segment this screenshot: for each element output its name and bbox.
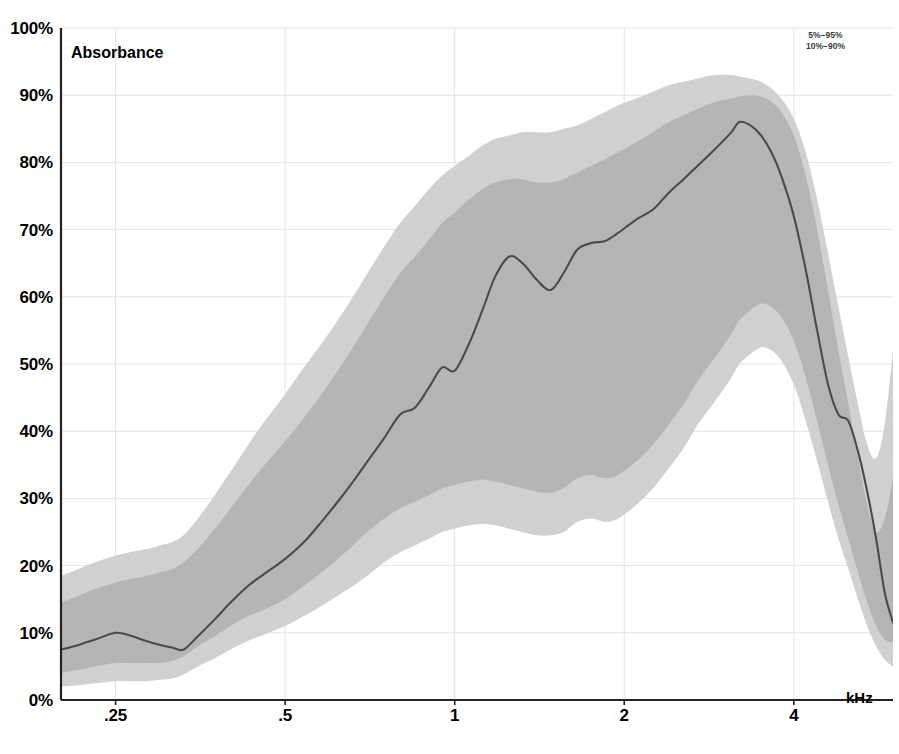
absorbance-chart bbox=[0, 0, 899, 754]
y-tick-label: 70% bbox=[0, 221, 53, 241]
y-tick-label: 20% bbox=[0, 557, 53, 577]
y-tick-label: 40% bbox=[0, 422, 53, 442]
y-tick-label: 100% bbox=[0, 19, 53, 39]
y-tick-label: 80% bbox=[0, 153, 53, 173]
x-axis-title: kHz bbox=[846, 689, 873, 706]
y-tick-label: 0% bbox=[0, 691, 53, 711]
chart-legend: 5%−95% 10%−90% bbox=[806, 30, 845, 53]
y-tick-label: 60% bbox=[0, 288, 53, 308]
x-tick-label: 2 bbox=[620, 706, 629, 726]
y-tick-label: 50% bbox=[0, 355, 53, 375]
y-tick-label: 10% bbox=[0, 624, 53, 644]
legend-item-outer-band: 5%−95% bbox=[806, 30, 845, 41]
y-axis-title: Absorbance bbox=[71, 44, 163, 62]
percentile-bands bbox=[61, 75, 893, 687]
x-tick-label: 1 bbox=[450, 706, 459, 726]
chart-root: Absorbance kHz 5%−95% 10%−90% 0%10%20%30… bbox=[0, 0, 899, 754]
y-tick-label: 30% bbox=[0, 489, 53, 509]
x-tick-label: .25 bbox=[104, 706, 127, 726]
x-tick-label: 4 bbox=[789, 706, 798, 726]
y-tick-label: 90% bbox=[0, 86, 53, 106]
legend-item-inner-band: 10%−90% bbox=[806, 41, 845, 52]
x-tick-label: .5 bbox=[278, 706, 292, 726]
